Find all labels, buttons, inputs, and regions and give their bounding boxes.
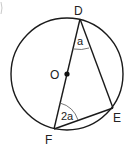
- label-d: D: [74, 4, 83, 18]
- circle-diagram: D O E F a 2a: [0, 0, 133, 150]
- angle-label-2a: 2a: [61, 110, 74, 122]
- angle-label-a: a: [77, 35, 84, 47]
- label-f: F: [45, 133, 52, 147]
- label-o: O: [50, 68, 59, 82]
- angle-arc-d: [74, 48, 89, 50]
- partial-mark: [1, 2, 2, 14]
- center-point: [64, 71, 69, 76]
- label-e: E: [113, 111, 121, 125]
- segment-de: [80, 19, 113, 108]
